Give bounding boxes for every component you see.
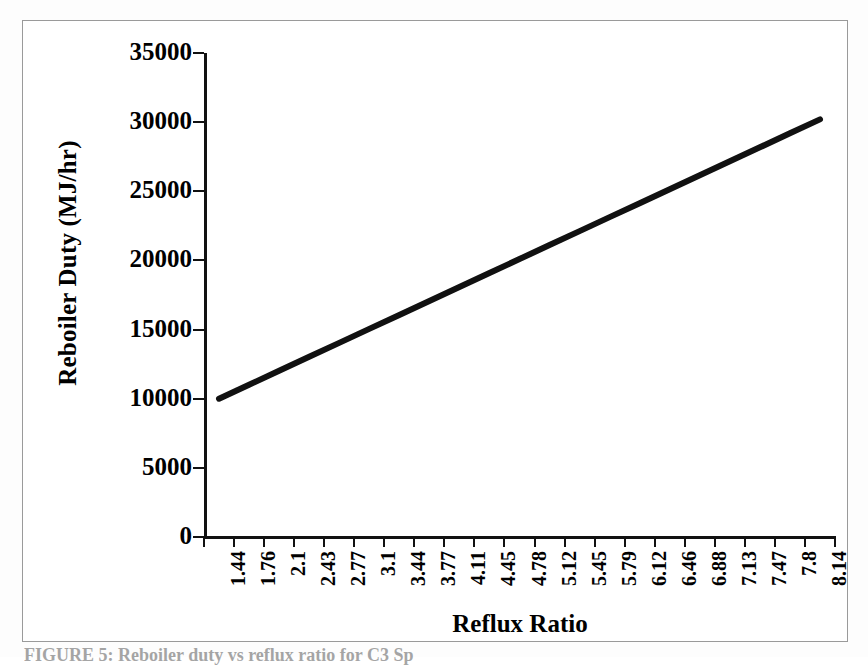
y-tick-label: 0	[180, 522, 193, 550]
y-tick-label: 5000	[142, 453, 192, 481]
y-axis-title: Reboiler Duty (MJ/hr)	[54, 113, 82, 413]
y-tick-mark	[193, 398, 204, 400]
data-series-line	[204, 53, 836, 539]
y-tick-label: 10000	[130, 384, 193, 412]
y-tick-label: 20000	[130, 245, 193, 273]
y-tick-mark	[193, 121, 204, 123]
figure-frame: Reboiler Duty (MJ/hr) 050001000015000200…	[22, 20, 848, 642]
figure-caption: FIGURE 5: Reboiler duty vs reflux ratio …	[24, 645, 844, 666]
y-tick-label: 15000	[130, 315, 193, 343]
y-tick-mark	[193, 190, 204, 192]
y-tick-mark	[193, 329, 204, 331]
y-tick-mark	[193, 259, 204, 261]
x-axis-title: Reflux Ratio	[204, 610, 836, 638]
y-tick-mark	[193, 467, 204, 469]
y-tick-label: 35000	[130, 38, 193, 66]
y-tick-mark	[193, 52, 204, 54]
y-tick-label: 30000	[130, 107, 193, 135]
y-tick-label: 25000	[130, 176, 193, 204]
